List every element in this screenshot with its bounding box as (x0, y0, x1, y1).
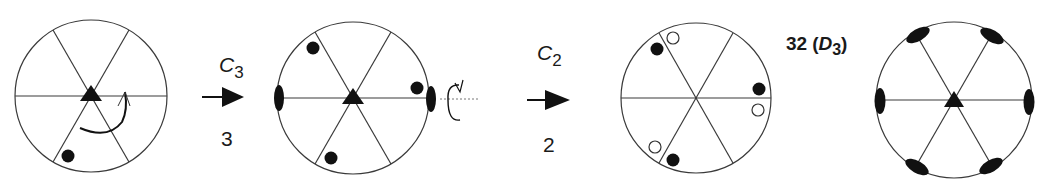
point-open (649, 141, 661, 153)
twofold-axis-icon (426, 86, 436, 112)
point-filled (753, 83, 766, 96)
threefold-axis-icon (944, 91, 964, 107)
twofold-axis-icon (903, 155, 932, 178)
step-c3: C3 3 (202, 53, 244, 150)
point-group-title: 32(D3) (786, 33, 847, 58)
rotation-arrowhead-icon (118, 92, 130, 106)
point-filled (62, 150, 75, 163)
threefold-axis-icon (342, 88, 364, 104)
twofold-axis-icon (1024, 89, 1035, 115)
operator-c2-label: C2 (537, 41, 562, 70)
point-filled (307, 42, 320, 55)
order-3-label: 3 (221, 127, 233, 150)
point-group-derivation-diagram: C3 3 C2 2 32(D3) (0, 0, 1046, 186)
twofold-axis-icon (875, 88, 886, 114)
operator-c3-label: C3 (219, 53, 244, 82)
point-filled (411, 82, 424, 95)
order-2-label: 2 (543, 133, 555, 156)
stereogram-after-c2 (621, 23, 771, 173)
point-filled (651, 43, 664, 56)
point-open (667, 32, 679, 44)
twofold-axis-icon (274, 85, 284, 111)
point-open (752, 104, 764, 116)
threefold-axis-icon (80, 85, 102, 101)
step-c2: C2 2 (527, 41, 570, 156)
twofold-rotation-arrow-icon (448, 85, 460, 120)
point-filled (667, 154, 680, 167)
twofold-axis-icon (977, 154, 1006, 177)
point-filled (325, 152, 338, 165)
